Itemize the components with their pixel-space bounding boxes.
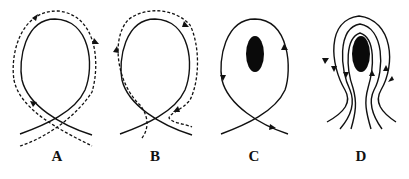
panel-d bbox=[322, 16, 396, 129]
arrow-icon bbox=[182, 21, 189, 27]
panel-label-b: B bbox=[140, 148, 170, 165]
panel-label-a: A bbox=[42, 148, 72, 165]
loop-line bbox=[120, 19, 192, 135]
arrow-icon bbox=[281, 44, 288, 50]
panel-b bbox=[113, 11, 198, 138]
panel-a bbox=[13, 11, 99, 146]
panel-label-d: D bbox=[346, 148, 376, 165]
arrow-icon bbox=[369, 70, 375, 76]
arrow-icon bbox=[322, 58, 329, 64]
obstacle bbox=[352, 36, 370, 72]
panel-c bbox=[220, 19, 288, 134]
dashed-path bbox=[118, 11, 197, 138]
arrow-icon bbox=[220, 75, 226, 81]
obstacle bbox=[246, 36, 264, 72]
arrow-icon bbox=[173, 106, 180, 112]
arrow-icon bbox=[92, 38, 99, 44]
panel-label-c: C bbox=[239, 148, 269, 165]
dashed-path bbox=[13, 11, 96, 146]
arrow-icon bbox=[343, 72, 349, 78]
arrow-icon bbox=[32, 14, 38, 21]
loop-line bbox=[20, 19, 92, 135]
arrow-icon bbox=[388, 76, 394, 82]
